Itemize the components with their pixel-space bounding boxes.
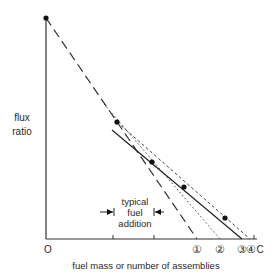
data-point [149,159,154,164]
annotation-line2: fuel [127,207,142,218]
annotation-line3: addition [118,218,151,229]
flux-ratio-diagram: flux ratio typical fuel addition O ① ② ③… [0,0,277,274]
arrow-right-icon [100,208,114,216]
origin-label: O [44,244,52,255]
data-point [114,119,119,124]
y-axis-label-line1: flux [14,112,30,123]
annotation-line1: typical [122,196,149,207]
intercept-label-1: ① [192,243,202,255]
data-point [222,215,227,220]
arrow-left-icon [154,208,164,216]
critical-label: C [256,244,263,255]
intercept-label-2: ② [215,243,225,255]
y-axis-label-line2: ratio [12,126,32,137]
data-point [43,15,48,20]
x-axis-label: fuel mass or number of assemblies [72,260,220,271]
data-point [181,184,186,189]
intercept-label-4: ④ [246,243,256,255]
